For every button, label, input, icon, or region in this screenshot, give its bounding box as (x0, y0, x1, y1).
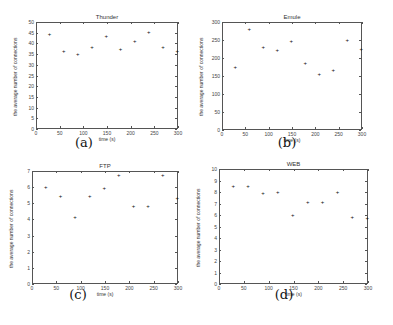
data-point (91, 46, 94, 49)
x-tick-mark (315, 127, 316, 129)
y-tick-mark (219, 227, 221, 228)
data-point (147, 205, 150, 208)
y-tick-label: 45 (20, 30, 34, 36)
data-point (247, 185, 250, 188)
x-tick-mark (269, 281, 270, 283)
x-tick-mark (178, 126, 179, 128)
data-point (63, 50, 66, 53)
x-tick-label: 300 (360, 285, 376, 291)
x-tick-mark (131, 126, 132, 128)
x-tick-mark (36, 126, 37, 128)
x-tick-mark (154, 171, 155, 173)
x-tick-mark (56, 281, 57, 283)
x-tick-mark (154, 22, 155, 24)
x-tick-mark (83, 126, 84, 128)
x-tick-mark (81, 171, 82, 173)
x-tick-mark (105, 171, 106, 173)
y-tick-mark (365, 192, 367, 193)
y-tick-label: 4 (203, 235, 217, 241)
x-tick-mark (81, 281, 82, 283)
y-tick-mark (219, 261, 221, 262)
y-tick-mark (175, 118, 177, 119)
x-tick-mark (244, 169, 245, 171)
x-tick-mark (362, 127, 363, 129)
y-tick-mark (175, 33, 177, 34)
x-tick-mark (269, 127, 270, 129)
y-tick-label: 4 (16, 216, 30, 222)
x-tick-mark (245, 127, 246, 129)
x-tick-mark (107, 22, 108, 24)
x-tick-label: 250 (331, 131, 347, 137)
y-tick-mark (175, 171, 177, 172)
subfigure-caption: (a) (64, 135, 104, 150)
y-tick-mark (219, 273, 221, 274)
y-tick-mark (359, 58, 361, 59)
x-tick-mark (368, 281, 369, 283)
y-tick-label: 300 (206, 19, 220, 25)
chart-title: FTP (75, 163, 135, 169)
y-tick-mark (36, 54, 38, 55)
y-tick-mark (365, 204, 367, 205)
x-tick-label: 250 (146, 130, 162, 136)
y-tick-mark (359, 112, 361, 113)
y-tick-mark (365, 169, 367, 170)
x-tick-mark (178, 281, 179, 283)
y-tick-label: 250 (206, 37, 220, 43)
x-tick-mark (32, 171, 33, 173)
y-tick-label: 100 (206, 91, 220, 97)
x-tick-mark (107, 126, 108, 128)
y-tick-mark (219, 181, 221, 182)
data-point (322, 201, 325, 204)
x-tick-mark (222, 22, 223, 24)
data-point (337, 191, 340, 194)
y-tick-mark (32, 187, 34, 188)
y-tick-label: 5 (16, 200, 30, 206)
y-tick-mark (32, 236, 34, 237)
y-tick-mark (359, 94, 361, 95)
y-tick-mark (175, 252, 177, 253)
x-tick-mark (339, 22, 340, 24)
data-point (162, 46, 165, 49)
x-tick-mark (154, 126, 155, 128)
y-tick-mark (365, 181, 367, 182)
data-point (118, 174, 121, 177)
x-tick-mark (343, 281, 344, 283)
x-tick-mark (60, 126, 61, 128)
data-point (277, 191, 280, 194)
y-tick-mark (359, 76, 361, 77)
x-tick-mark (339, 127, 340, 129)
x-tick-mark (318, 281, 319, 283)
data-point (262, 192, 265, 195)
y-tick-label: 25 (20, 73, 34, 79)
y-tick-label: 2 (16, 249, 30, 255)
data-point (263, 46, 266, 49)
x-tick-mark (269, 169, 270, 171)
data-point (235, 66, 238, 69)
chart-title: Emule (262, 14, 322, 20)
y-tick-label: 150 (206, 73, 220, 79)
y-tick-mark (32, 219, 34, 220)
data-point (292, 214, 295, 217)
y-tick-label: 15 (20, 94, 34, 100)
y-tick-mark (32, 268, 34, 269)
y-tick-label: 2 (203, 258, 217, 264)
x-tick-mark (222, 127, 223, 129)
y-tick-label: 40 (20, 40, 34, 46)
y-tick-mark (175, 22, 177, 23)
x-tick-mark (154, 281, 155, 283)
y-tick-label: 3 (203, 247, 217, 253)
y-tick-mark (175, 97, 177, 98)
y-tick-label: 6 (203, 212, 217, 218)
y-tick-mark (175, 219, 177, 220)
x-tick-mark (318, 169, 319, 171)
y-tick-mark (219, 192, 221, 193)
y-tick-mark (365, 273, 367, 274)
y-tick-mark (219, 238, 221, 239)
data-point (74, 216, 77, 219)
x-tick-label: 0 (211, 285, 227, 291)
x-tick-mark (56, 171, 57, 173)
y-tick-mark (219, 250, 221, 251)
data-point (367, 217, 370, 220)
y-tick-label: 6 (16, 184, 30, 190)
y-tick-label: 50 (206, 109, 220, 115)
